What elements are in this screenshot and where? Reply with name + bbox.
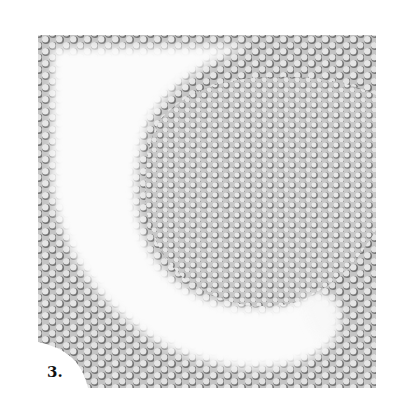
cell-texture-image (0, 0, 405, 407)
figure-label: 3. (47, 363, 63, 381)
central-cell-cluster (145, 77, 376, 306)
micrograph-figure: 3. (0, 0, 405, 407)
outer-cell-field (38, 35, 376, 388)
